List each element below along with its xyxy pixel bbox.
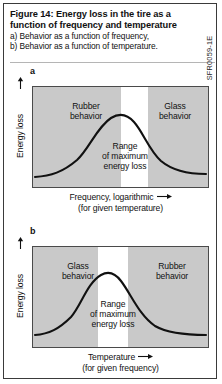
arrow-right-icon	[157, 192, 172, 203]
panel-a-plot-area: Rubber behavior Glass behavior Range of …	[32, 86, 209, 188]
panel-b-left-region-label: Glass behavior	[45, 261, 111, 282]
panel-a-max-range-label: Range of maximum energy loss	[80, 141, 170, 172]
figure-title: Figure 14: Energy loss in the tire as a …	[10, 9, 194, 30]
arrow-right-icon	[138, 352, 153, 363]
figure-caption-a: a) Behavior as a function of frequency,	[10, 31, 194, 41]
panel-a-right-region-line2: behavior	[159, 111, 191, 121]
panel-a-max-range-line1: Range	[113, 141, 138, 151]
panel-b-max-range-line1: Range	[101, 299, 126, 309]
panel-a-x-axis-sublabel: (for given temperature)	[32, 203, 209, 214]
panel-b-plot-area: Glass behavior Rubber behavior Range of …	[32, 246, 209, 348]
panel-a-y-axis-label: Energy loss	[12, 84, 28, 188]
panel-b: b Energy loss Glass behavior Rubber beha…	[4, 226, 218, 378]
panel-a-x-axis-text: Frequency, logarithmic	[69, 192, 153, 202]
panel-a-left-region-line2: behavior	[70, 111, 102, 121]
panel-a-y-axis-text: Energy loss	[15, 114, 25, 158]
panel-b-y-axis-text: Energy loss	[15, 274, 25, 318]
panel-b-letter: b	[30, 226, 36, 236]
figure-container: Figure 14: Energy loss in the tire as a …	[3, 3, 217, 379]
panel-a-max-range-line3: energy loss	[104, 161, 147, 171]
panel-b-max-range-line3: energy loss	[92, 319, 135, 329]
figure-caption-b: b) Behavior as a function of temperature…	[10, 41, 194, 51]
panel-b-x-axis-sublabel: (for given frequency)	[32, 363, 209, 374]
header-divider	[10, 62, 215, 63]
panel-b-left-region-line2: behavior	[62, 271, 94, 281]
panel-b-max-range-line2: of maximum	[90, 309, 136, 319]
panel-b-x-axis-text: Temperature	[88, 352, 135, 362]
panel-a-left-region-label: Rubber behavior	[51, 101, 121, 122]
panel-a-right-region-line1: Glass	[164, 101, 185, 111]
panel-b-right-region-label: Rubber behavior	[137, 261, 207, 282]
panel-b-x-axis-label: Temperature (for given frequency)	[32, 352, 209, 374]
panel-a: a Energy loss Rubber behavior Glass beha…	[4, 66, 218, 224]
panel-a-letter: a	[30, 66, 35, 76]
panel-a-right-region-label: Glass behavior	[143, 101, 207, 122]
panel-a-max-range-line2: of maximum	[102, 151, 148, 161]
panel-b-right-region-line2: behavior	[156, 271, 188, 281]
panel-b-right-region-line1: Rubber	[158, 261, 186, 271]
figure-header: Figure 14: Energy loss in the tire as a …	[10, 9, 194, 51]
panel-b-y-axis-label: Energy loss	[12, 244, 28, 348]
panel-b-max-range-label: Range of maximum energy loss	[68, 299, 158, 330]
panel-a-x-axis-label: Frequency, logarithmic (for given temper…	[32, 192, 209, 214]
panel-a-left-region-line1: Rubber	[72, 101, 100, 111]
panel-b-left-region-line1: Glass	[67, 261, 88, 271]
